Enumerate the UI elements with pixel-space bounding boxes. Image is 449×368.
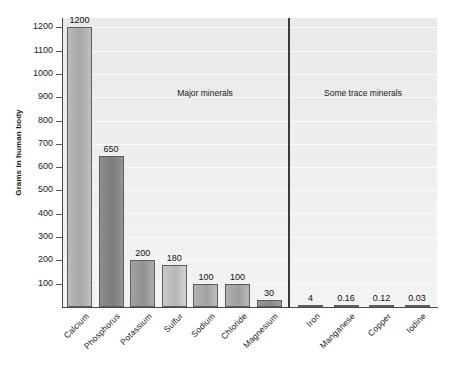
y-tick — [56, 144, 62, 145]
bar-value-label: 4 — [308, 293, 313, 303]
gridline — [63, 27, 437, 28]
bar — [130, 260, 155, 307]
x-axis-label: Sodium — [189, 311, 217, 339]
bar-value-label: 0.16 — [337, 293, 355, 303]
x-axis-label: Iron — [304, 311, 322, 329]
y-tick — [56, 121, 62, 122]
bar — [257, 300, 282, 307]
y-tick-label: 1200 — [0, 21, 53, 31]
bar — [162, 265, 187, 307]
bar — [193, 284, 218, 307]
y-tick — [56, 167, 62, 168]
bar — [225, 284, 250, 307]
y-tick-label: 900 — [0, 91, 53, 101]
bar-value-label: 0.12 — [373, 293, 391, 303]
x-axis-line — [62, 307, 438, 308]
x-axis-label: Chloride — [218, 311, 248, 341]
group-annotation: Some trace minerals — [324, 88, 402, 98]
bar-chart: Grams in human body 10020030040050060070… — [0, 0, 449, 368]
y-tick-label: 1000 — [0, 68, 53, 78]
bar — [298, 305, 323, 308]
bar — [334, 305, 359, 308]
y-tick-label: 200 — [0, 254, 53, 264]
y-tick — [56, 284, 62, 285]
bar — [405, 305, 430, 308]
gridline — [63, 74, 437, 75]
bar — [67, 27, 92, 307]
y-tick-label: 1100 — [0, 45, 53, 55]
y-axis-title: Grams in human body — [14, 88, 23, 218]
bar — [99, 156, 124, 307]
y-tick — [56, 74, 62, 75]
y-tick-label: 100 — [0, 278, 53, 288]
y-tick — [56, 190, 62, 191]
gridline — [63, 51, 437, 52]
y-tick — [56, 237, 62, 238]
x-axis-label: Potassium — [118, 311, 154, 347]
y-tick-label: 300 — [0, 231, 53, 241]
y-tick — [56, 214, 62, 215]
x-axis-label: Manganese — [318, 311, 357, 350]
x-axis-label: Copper — [365, 311, 392, 338]
bar-value-label: 30 — [264, 288, 274, 298]
y-tick — [56, 51, 62, 52]
y-tick — [56, 27, 62, 28]
y-tick-label: 800 — [0, 115, 53, 125]
x-axis-label: Calcium — [61, 311, 91, 341]
group-divider — [288, 18, 290, 308]
bar-value-label: 200 — [135, 248, 150, 258]
y-axis-line — [62, 18, 63, 308]
group-annotation: Major minerals — [177, 88, 233, 98]
bar-value-label: 100 — [230, 272, 245, 282]
bar-value-label: 100 — [198, 272, 213, 282]
bar-value-label: 0.03 — [408, 293, 426, 303]
gridline — [63, 144, 437, 145]
x-axis-label: Iodine — [404, 311, 428, 335]
bar-value-label: 1200 — [69, 15, 89, 25]
y-tick-label: 400 — [0, 208, 53, 218]
y-tick-label: 500 — [0, 184, 53, 194]
bar-value-label: 650 — [104, 144, 119, 154]
gridline — [63, 121, 437, 122]
y-tick — [56, 260, 62, 261]
bar-value-label: 180 — [167, 253, 182, 263]
y-tick — [56, 97, 62, 98]
bar — [369, 305, 394, 308]
y-tick-label: 600 — [0, 161, 53, 171]
x-axis-label: Sulfur — [162, 311, 185, 334]
y-tick-label: 700 — [0, 138, 53, 148]
